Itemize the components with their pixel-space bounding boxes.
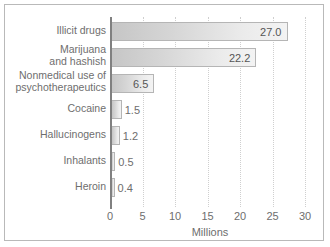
- bar-wrapper: 0.4: [112, 178, 115, 197]
- bar-value-label: 6.5: [133, 78, 148, 91]
- category-label: Marijuana and hashish: [0, 44, 106, 67]
- bar-wrapper: 0.5: [112, 152, 115, 171]
- category-label: Cocaine: [0, 103, 106, 115]
- x-tick-label-25: 25: [258, 210, 288, 222]
- bar-value-label: 22.2: [229, 52, 250, 65]
- bar-wrapper: 1.5: [112, 100, 122, 119]
- bar-value-label: 0.5: [118, 156, 133, 169]
- bar[interactable]: 27.0: [112, 22, 288, 41]
- category-label: Inhalants: [0, 155, 106, 167]
- category-label: Hallucinogens: [0, 129, 106, 141]
- bar-value-label: 1.5: [125, 104, 140, 117]
- bar[interactable]: 0.4: [112, 178, 115, 197]
- x-tick-label-10: 10: [160, 210, 190, 222]
- x-tick-label-5: 5: [128, 210, 158, 222]
- bar-row: Cocaine1.5: [5, 97, 325, 123]
- bar-row: Inhalants0.5: [5, 149, 325, 175]
- bar-row: Illicit drugs27.0: [5, 19, 325, 45]
- bar-wrapper: 1.2: [112, 126, 120, 145]
- bar-chart-plot-area: Illicit drugs27.0Marijuana and hashish22…: [5, 5, 325, 242]
- bar-row: Hallucinogens1.2: [5, 123, 325, 149]
- bar-value-label: 1.2: [123, 130, 138, 143]
- x-axis-title: Millions: [110, 226, 310, 238]
- x-axis-tick-labels: 051015202530: [5, 210, 325, 224]
- x-tick-label-15: 15: [193, 210, 223, 222]
- x-tick-label-0: 0: [95, 210, 125, 222]
- x-tick-label-30: 30: [290, 210, 320, 222]
- bar-row: Nonmedical use of psychotherapeutics6.5: [5, 71, 325, 97]
- category-label: Nonmedical use of psychotherapeutics: [0, 70, 106, 93]
- bar-row: Marijuana and hashish22.2: [5, 45, 325, 71]
- bar-wrapper: 22.2: [112, 48, 256, 67]
- x-tick-label-20: 20: [225, 210, 255, 222]
- bar-row: Heroin0.4: [5, 175, 325, 201]
- chart-frame: Illicit drugs27.0Marijuana and hashish22…: [4, 4, 324, 241]
- bar-wrapper: 27.0: [112, 22, 288, 41]
- category-label: Heroin: [0, 181, 106, 193]
- bar-rows: Illicit drugs27.0Marijuana and hashish22…: [5, 19, 325, 201]
- category-label: Illicit drugs: [0, 25, 106, 37]
- bar[interactable]: 22.2: [112, 48, 256, 67]
- bar-value-label: 0.4: [118, 182, 133, 195]
- bar-wrapper: 6.5: [112, 74, 154, 93]
- bar[interactable]: 1.2: [112, 126, 120, 145]
- bar-value-label: 27.0: [260, 26, 281, 39]
- bar[interactable]: 0.5: [112, 152, 115, 171]
- bar[interactable]: 6.5: [112, 74, 154, 93]
- bar[interactable]: 1.5: [112, 100, 122, 119]
